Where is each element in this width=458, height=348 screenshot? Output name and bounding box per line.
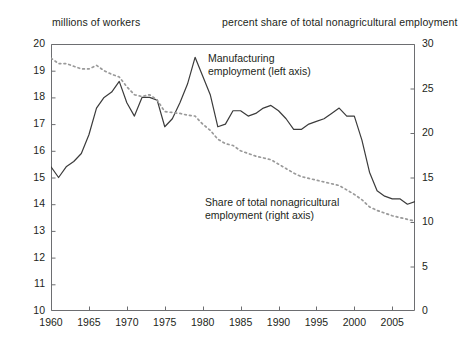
annotation-manufacturing: Manufacturing employment (left axis) — [208, 52, 311, 77]
left-axis-tick-label: 11 — [21, 277, 45, 289]
left-axis-tick-label: 16 — [21, 144, 45, 156]
plot-frame — [52, 45, 415, 311]
annotation-share-line2: employment (right axis) — [205, 209, 339, 222]
x-axis-tick-label: 1965 — [69, 316, 109, 328]
x-axis-tick-label: 1970 — [107, 316, 147, 328]
right-axis-tick-label: 20 — [422, 126, 446, 138]
plot-area — [51, 44, 415, 311]
left-axis-tick-label: 17 — [21, 117, 45, 129]
annotation-share: Share of total nonagricultural employmen… — [205, 196, 339, 221]
annotation-manufacturing-line1: Manufacturing — [208, 52, 311, 65]
right-axis-tick-label: 10 — [422, 215, 446, 227]
left-axis-tick-label: 14 — [21, 197, 45, 209]
annotation-share-line1: Share of total nonagricultural — [205, 196, 339, 209]
left-axis-tick-label: 12 — [21, 251, 45, 263]
x-axis-tick-label: 1990 — [259, 316, 299, 328]
left-axis-tick-label: 19 — [21, 64, 45, 76]
left-axis-tick-label: 18 — [21, 90, 45, 102]
left-axis-tick-label: 10 — [21, 304, 45, 316]
right-axis-tick-label: 25 — [422, 82, 446, 94]
chart-figure: millions of workers percent share of tot… — [0, 0, 458, 348]
right-axis-tick-label: 15 — [422, 171, 446, 183]
right-axis-unit-label: percent share of total nonagricultural e… — [222, 16, 457, 28]
annotation-manufacturing-line2: employment (left axis) — [208, 65, 311, 78]
x-axis-tick-label: 1960 — [31, 316, 71, 328]
left-axis-unit-label: millions of workers — [52, 16, 140, 28]
x-axis-tick-label: 2005 — [372, 316, 412, 328]
x-axis-tick-label: 1980 — [183, 316, 223, 328]
x-axis-tick-label: 2000 — [334, 316, 374, 328]
chart-svg — [51, 44, 415, 311]
left-axis-tick-label: 13 — [21, 224, 45, 236]
right-axis-tick-label: 5 — [422, 260, 446, 272]
x-axis-tick-label: 1985 — [221, 316, 261, 328]
x-axis-tick-label: 1995 — [296, 316, 336, 328]
series-line-1 — [51, 57, 415, 204]
x-axis-tick-label: 1975 — [145, 316, 185, 328]
right-axis-tick-label: 30 — [422, 37, 446, 49]
left-axis-tick-label: 20 — [21, 37, 45, 49]
right-axis-tick-label: 0 — [422, 304, 446, 316]
left-axis-tick-label: 15 — [21, 171, 45, 183]
